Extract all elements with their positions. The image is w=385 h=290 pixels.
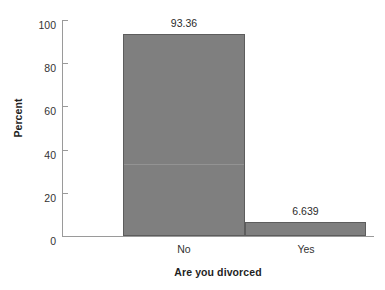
bar-value-yes: 6.639 (251, 205, 361, 217)
y-tick-mark-20 (62, 193, 68, 194)
x-tick-label-yes: Yes (261, 243, 351, 255)
y-tick-label-20: 20 (16, 193, 56, 204)
x-axis-line (62, 236, 374, 237)
x-tick-label-no: No (139, 243, 229, 255)
y-tick-mark-60 (62, 106, 68, 107)
y-tick-label-80: 80 (16, 63, 56, 74)
y-tick-mark-40 (62, 150, 68, 151)
y-axis-title: Percent (12, 83, 24, 153)
y-tick-label-100: 100 (16, 20, 56, 31)
y-axis-line (62, 20, 63, 237)
bar-chart-figure: 100 80 60 40 20 0 Percent 93.36 6.639 No… (0, 0, 385, 290)
bar-value-no: 93.36 (129, 17, 239, 29)
y-tick-label-0: 0 (16, 236, 56, 247)
x-axis-title: Are you divorced (62, 266, 374, 278)
y-tick-mark-80 (62, 63, 68, 64)
bar-yes[interactable] (245, 222, 366, 236)
bar-no[interactable] (123, 34, 245, 236)
y-tick-mark-100 (62, 20, 68, 21)
